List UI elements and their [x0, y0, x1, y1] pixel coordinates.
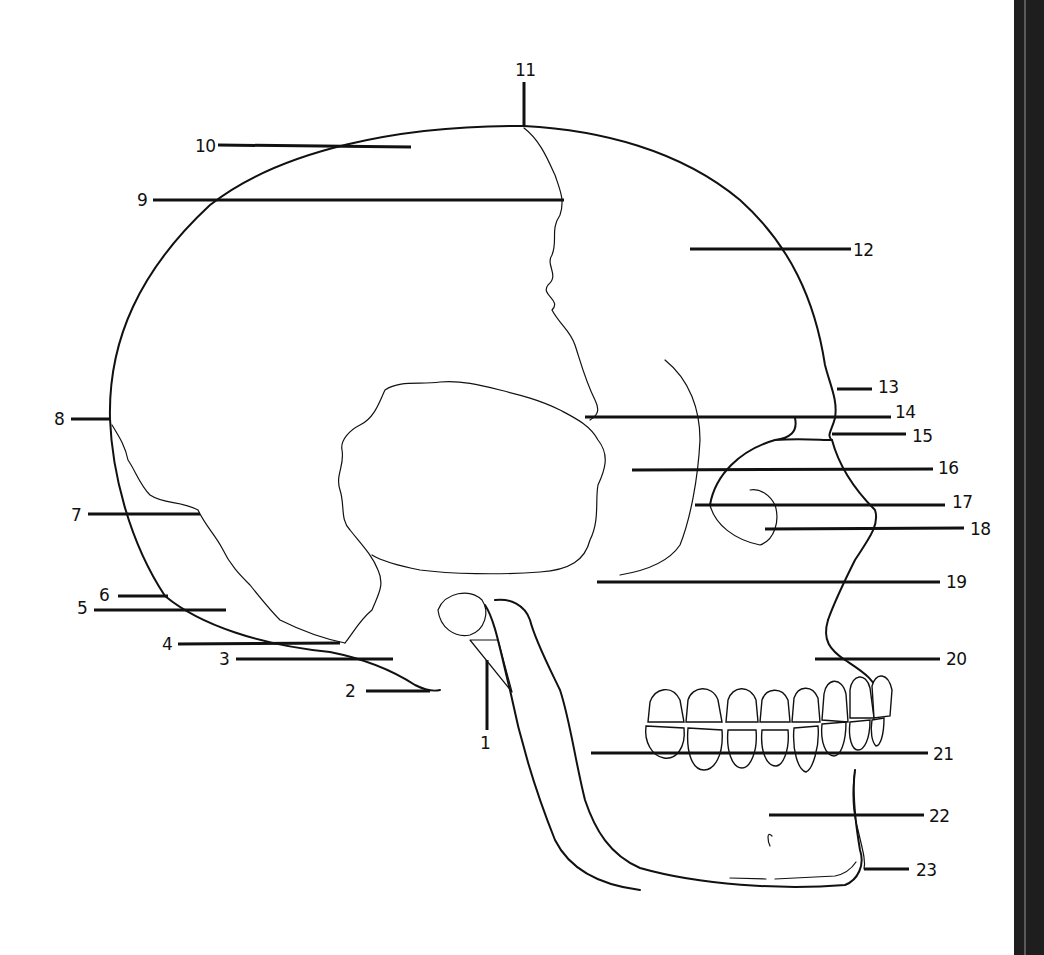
- label-10: 10: [195, 138, 216, 155]
- occipital-outline: [110, 419, 440, 691]
- label-8: 8: [54, 411, 64, 428]
- label-1: 1: [480, 735, 490, 752]
- label-17: 17: [952, 494, 973, 511]
- label-4: 4: [162, 636, 172, 653]
- skull-diagram: [0, 0, 1044, 955]
- mandibular-condyle: [438, 593, 486, 635]
- label-21: 21: [933, 746, 954, 763]
- cranium-outline: [110, 126, 836, 440]
- styloid-process: [470, 640, 512, 692]
- label-13: 13: [878, 379, 899, 396]
- label-7: 7: [71, 507, 81, 524]
- orbit-outline: [710, 418, 876, 620]
- leader-line-16: [632, 469, 933, 470]
- label-23: 23: [916, 862, 937, 879]
- label-9: 9: [137, 192, 147, 209]
- label-3: 3: [219, 651, 229, 668]
- label-14: 14: [895, 404, 916, 421]
- label-11: 11: [515, 62, 536, 79]
- label-5: 5: [77, 600, 87, 617]
- upper-teeth: [648, 676, 892, 722]
- lower-teeth: [646, 718, 884, 772]
- mandible-base-line: [730, 862, 856, 879]
- label-2: 2: [345, 683, 355, 700]
- label-15: 15: [912, 428, 933, 445]
- temporal-line: [620, 360, 700, 575]
- label-19: 19: [946, 574, 967, 591]
- orbit-inner: [710, 490, 777, 545]
- label-12: 12: [853, 242, 874, 259]
- label-18: 18: [970, 521, 991, 538]
- leader-line-10: [218, 145, 411, 147]
- squamosal-suture: [339, 382, 606, 643]
- mandible-ramus: [485, 605, 640, 890]
- label-22: 22: [929, 808, 950, 825]
- leader-line-4: [178, 643, 340, 644]
- label-20: 20: [946, 651, 967, 668]
- label-16: 16: [938, 460, 959, 477]
- leader-line-18: [765, 528, 964, 529]
- coronal-suture: [524, 128, 598, 420]
- mental-foramen: [768, 834, 772, 846]
- label-6: 6: [99, 587, 109, 604]
